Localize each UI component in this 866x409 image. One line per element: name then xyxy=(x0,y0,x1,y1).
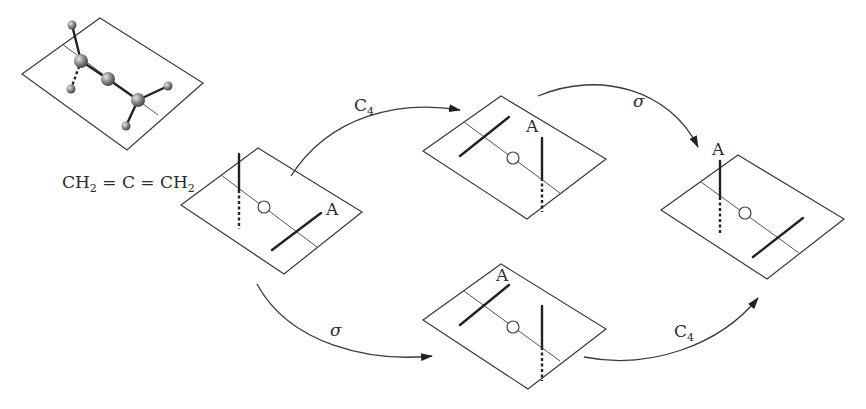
atom-h4 xyxy=(122,122,131,131)
op-label-sigma: σ xyxy=(633,91,645,111)
axis xyxy=(701,182,799,253)
panel-after-sigma: A xyxy=(423,264,606,389)
arrow-path xyxy=(291,107,460,176)
arrow-sigma-bottom: σ xyxy=(257,284,432,357)
panel-final: A xyxy=(661,139,844,279)
arrow-c4-top: C4 xyxy=(291,95,460,176)
marker-a: A xyxy=(525,116,539,136)
atom-c3 xyxy=(131,93,145,107)
atom-h3 xyxy=(164,82,173,91)
panel-after-c4: A xyxy=(423,96,606,219)
arrow-path xyxy=(538,85,698,147)
plane xyxy=(661,155,844,279)
marker-a: A xyxy=(495,265,509,285)
arrow-path xyxy=(257,284,432,357)
marker-a: A xyxy=(711,139,725,159)
formula-label: CH2 = C = CH2 xyxy=(62,172,195,195)
horizontal-bond xyxy=(753,218,803,257)
op-label-sigma: σ xyxy=(330,320,342,340)
center-atom xyxy=(507,152,519,164)
molecule-panel: CH2 = C = CH2 xyxy=(22,18,203,195)
panel-initial: A xyxy=(181,148,362,274)
op-label-c4: C4 xyxy=(354,95,374,118)
center-atom xyxy=(507,321,519,333)
arrow-c4-bottom: C4 xyxy=(584,298,758,360)
atom-c2 xyxy=(101,72,115,86)
center-atom xyxy=(739,207,751,219)
atom-h1 xyxy=(68,21,77,30)
atom-c1 xyxy=(74,54,88,68)
arrow-path xyxy=(584,298,758,360)
marker-a: A xyxy=(325,199,339,219)
center-atom xyxy=(258,201,270,213)
atom-h2 xyxy=(67,85,76,94)
arrow-sigma-top: σ xyxy=(538,85,698,147)
op-label-c4: C4 xyxy=(674,321,694,344)
symmetry-diagram: CH2 = C = CH2 A A A xyxy=(0,0,866,409)
